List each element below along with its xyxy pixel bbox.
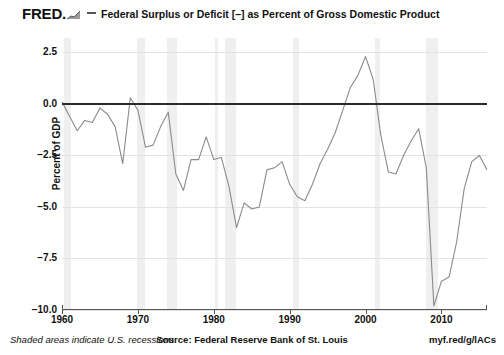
y-tick-label: 2.5 [5, 46, 57, 57]
x-tick-label: 1970 [127, 314, 149, 325]
rising-chart-icon [67, 7, 81, 17]
source-note: Source: Federal Reserve Bank of St. Loui… [156, 334, 348, 345]
fred-logo-text: FRED [22, 5, 62, 22]
series-line [62, 38, 487, 310]
x-tick-label: 2000 [354, 314, 376, 325]
x-axis-line [62, 309, 487, 310]
fred-logo: FRED. [22, 6, 81, 21]
y-tick-label: −10.0 [5, 304, 57, 315]
fred-logo-dot: . [62, 5, 66, 22]
title-dash [87, 12, 96, 14]
x-axis-right-cap [486, 305, 487, 310]
y-tick-label: −5.0 [5, 201, 57, 212]
x-tick-label: 1980 [203, 314, 225, 325]
x-tick-label: 1990 [279, 314, 301, 325]
recession-note: Shaded areas indicate U.S. recessions [10, 334, 174, 345]
zero-reference-line [62, 103, 487, 106]
short-url[interactable]: myf.red/g/lACs [429, 334, 496, 345]
page-title: Federal Surplus or Deficit [–] as Percen… [101, 8, 439, 20]
y-tick-label: −7.5 [5, 252, 57, 263]
x-tick-label: 1960 [51, 314, 73, 325]
y-axis-ticks: 2.50.0−2.5−5.0−7.5−10.0 [0, 38, 57, 310]
x-tick-label: 2010 [430, 314, 452, 325]
chart-header: FRED. Federal Surplus or Deficit [–] as … [22, 6, 439, 21]
fred-chart: FRED. Federal Surplus or Deficit [–] as … [0, 0, 504, 355]
y-tick-label: −2.5 [5, 149, 57, 160]
y-tick-label: 0.0 [5, 98, 57, 109]
plot-area [62, 38, 487, 310]
gridline [62, 310, 487, 311]
